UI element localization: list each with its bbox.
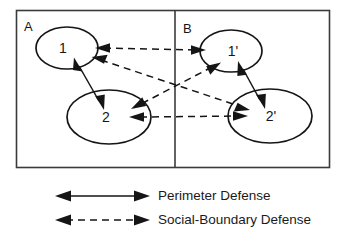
legend-item-social-boundary-defense: Social-Boundary Defense (55, 212, 311, 227)
node-label-2-prime: 2' (266, 108, 276, 124)
legend-dashed-arrowhead-right (134, 214, 150, 225)
panel-label-a: A (24, 19, 33, 34)
node-label-1-prime: 1' (228, 43, 238, 59)
arrowhead-into-n2p-from-n2 (233, 111, 248, 121)
arrowhead-into-n1-from-n2 (73, 58, 83, 72)
node-ellipse-1 (36, 27, 98, 69)
arrowhead-into-n2-from-n2p (129, 112, 144, 122)
legend-item-perimeter-defense: Perimeter Defense (55, 188, 271, 203)
edge-n1-n1p-social-boundary (95, 43, 206, 55)
arrowhead-into-n2p-from-n1 (234, 103, 250, 112)
node-label-1: 1 (59, 40, 67, 56)
node-label-2: 2 (102, 109, 110, 125)
edge-n1-n2p-social-boundary (92, 55, 251, 112)
legend: Perimeter Defense Social-Boundary Defens… (55, 188, 311, 227)
legend-label-social-boundary-defense: Social-Boundary Defense (158, 212, 311, 227)
arrowhead-into-n2-from-n1 (95, 95, 105, 110)
figure-root: A B (0, 0, 345, 239)
legend-solid-arrowhead-right (134, 190, 150, 201)
legend-dashed-arrowhead-left (55, 214, 71, 225)
edge-n1-n2-perimeter (73, 58, 105, 111)
legend-label-perimeter-defense: Perimeter Defense (158, 188, 271, 203)
arrowhead-into-n2-from-n1p (131, 97, 146, 109)
edge-n2-n2p-social-boundary (129, 111, 248, 122)
arrowhead-into-n1p-from-n1 (191, 45, 206, 55)
panel-label-b: B (183, 21, 192, 36)
diagram-canvas: A B (0, 0, 345, 239)
legend-solid-arrowhead-left (55, 190, 71, 201)
edge-n1p-n2p-perimeter (237, 61, 266, 109)
arrowhead-into-n1p-from-n2p (237, 61, 247, 76)
arrowhead-into-n2p-from-n1p (256, 94, 266, 109)
diagram-outer-frame (17, 11, 330, 168)
